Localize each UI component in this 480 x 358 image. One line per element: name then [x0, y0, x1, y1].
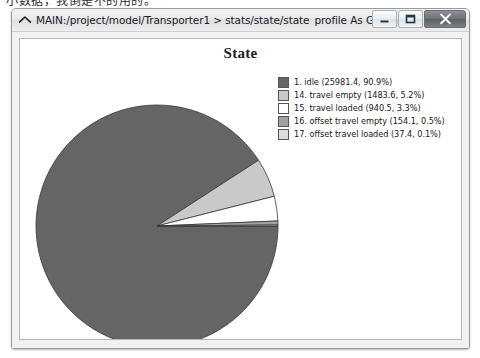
legend-item[interactable]: 16. offset travel empty (154.1, 0.5%)	[278, 115, 445, 127]
legend-label: 17. offset travel loaded (37.4, 0.1%)	[294, 129, 441, 139]
legend-swatch-icon	[278, 129, 289, 140]
legend-item[interactable]: 1. idle (25981.4, 90.9%)	[278, 76, 445, 88]
minimize-button[interactable]	[372, 10, 397, 28]
window-client-area: State 1. idle (25981.4, 90.9%)14. travel…	[12, 32, 469, 348]
chart-legend: 1. idle (25981.4, 90.9%)14. travel empty…	[278, 76, 445, 140]
close-icon	[439, 13, 452, 25]
legend-label: 1. idle (25981.4, 90.9%)	[294, 77, 392, 87]
background-page-text: 小数据，我倒是不的用的。	[0, 0, 480, 8]
minimize-icon	[379, 15, 390, 24]
legend-label: 14. travel empty (1483.6, 5.2%)	[294, 90, 424, 100]
legend-swatch-icon	[278, 116, 289, 127]
pie-slices	[36, 105, 278, 340]
legend-item[interactable]: 15. travel loaded (940.5, 3.3%)	[278, 102, 445, 114]
window-titlebar[interactable]: MAIN:/project/model/Transporter1 > stats…	[12, 9, 469, 32]
maximize-icon	[405, 14, 416, 24]
window-controls	[371, 10, 466, 28]
maximize-button[interactable]	[398, 10, 423, 28]
chart-panel[interactable]: State 1. idle (25981.4, 90.9%)14. travel…	[19, 38, 462, 340]
legend-swatch-icon	[278, 103, 289, 114]
legend-item[interactable]: 17. offset travel loaded (37.4, 0.1%)	[278, 128, 445, 140]
legend-swatch-icon	[278, 90, 289, 101]
close-button[interactable]	[424, 10, 466, 28]
background-text-line: 小数据，我倒是不的用的。	[6, 0, 156, 8]
legend-label: 16. offset travel empty (154.1, 0.5%)	[294, 116, 445, 126]
legend-swatch-icon	[278, 77, 289, 88]
graph-window: MAIN:/project/model/Transporter1 > stats…	[11, 8, 470, 349]
caret-up-icon	[18, 13, 32, 27]
legend-label: 15. travel loaded (940.5, 3.3%)	[294, 103, 421, 113]
legend-item[interactable]: 14. travel empty (1483.6, 5.2%)	[278, 89, 445, 101]
